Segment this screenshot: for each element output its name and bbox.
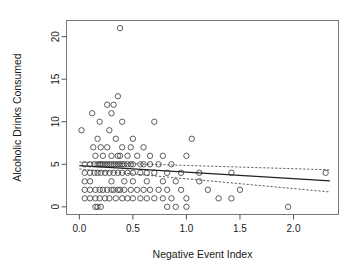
data-point xyxy=(134,187,139,192)
data-point xyxy=(109,153,114,158)
data-point xyxy=(125,153,130,158)
data-point xyxy=(184,196,189,201)
data-point xyxy=(189,136,194,141)
confidence-band-line xyxy=(79,169,330,192)
x-tick-label: 1.5 xyxy=(233,223,247,234)
data-point xyxy=(113,136,118,141)
y-axis-ticks: 05101520 xyxy=(50,31,67,210)
data-point xyxy=(156,187,161,192)
data-point xyxy=(152,196,157,201)
data-point xyxy=(82,179,87,184)
data-point xyxy=(79,128,84,133)
data-point xyxy=(160,179,165,184)
data-point xyxy=(98,204,103,209)
data-point xyxy=(100,153,105,158)
x-axis-label: Negative Event Index xyxy=(153,248,254,260)
data-point xyxy=(169,162,174,167)
data-point xyxy=(229,196,234,201)
data-point xyxy=(91,145,96,150)
data-point xyxy=(95,136,100,141)
data-point xyxy=(164,187,169,192)
data-point xyxy=(134,153,139,158)
data-point xyxy=(87,179,92,184)
data-point xyxy=(109,111,114,116)
data-point xyxy=(128,187,133,192)
x-tick-label: 0.5 xyxy=(126,223,140,234)
data-point xyxy=(141,145,146,150)
data-point xyxy=(82,196,87,201)
data-point xyxy=(173,179,178,184)
data-point xyxy=(147,187,152,192)
data-point xyxy=(173,204,178,209)
data-point xyxy=(130,179,135,184)
data-point xyxy=(205,187,210,192)
data-point xyxy=(87,196,92,201)
data-point xyxy=(82,170,87,175)
scatter-plot-figure: 0.00.51.01.52.0 05101520 Negative Event … xyxy=(0,0,364,274)
plot-frame-group xyxy=(67,21,339,215)
y-tick-label: 0 xyxy=(50,204,61,210)
x-tick-label: 0.0 xyxy=(72,223,86,234)
data-point xyxy=(197,179,202,184)
data-point xyxy=(93,153,98,158)
data-point xyxy=(125,170,130,175)
data-point xyxy=(178,187,183,192)
data-point xyxy=(125,196,130,201)
regression-line xyxy=(79,166,330,181)
data-point xyxy=(138,196,143,201)
data-point xyxy=(184,153,189,158)
data-point xyxy=(160,196,165,201)
y-axis-label: Alcoholic Drinks Consumed xyxy=(11,53,23,182)
data-point xyxy=(152,119,157,124)
data-point xyxy=(119,119,124,124)
data-point xyxy=(144,179,149,184)
data-point xyxy=(147,153,152,158)
data-point xyxy=(104,145,109,150)
data-point xyxy=(122,179,127,184)
data-point xyxy=(113,196,118,201)
data-point xyxy=(109,179,114,184)
data-point xyxy=(164,204,169,209)
data-point xyxy=(130,136,135,141)
data-point xyxy=(130,196,135,201)
data-point xyxy=(141,187,146,192)
data-point xyxy=(119,145,124,150)
data-point xyxy=(98,145,103,150)
data-point xyxy=(117,25,122,30)
data-point xyxy=(130,170,135,175)
x-tick-label: 2.0 xyxy=(287,223,301,234)
plot-border xyxy=(67,21,339,215)
data-point xyxy=(128,145,133,150)
y-tick-label: 5 xyxy=(50,161,61,167)
chart-canvas: 0.00.51.01.52.0 05101520 Negative Event … xyxy=(0,0,364,274)
regression-line-group xyxy=(79,166,330,181)
y-tick-label: 15 xyxy=(50,73,61,85)
data-points-group xyxy=(79,25,329,209)
confidence-band-line xyxy=(79,162,330,170)
data-point xyxy=(87,187,92,192)
data-point xyxy=(285,204,290,209)
y-tick-label: 20 xyxy=(50,31,61,43)
data-point xyxy=(144,196,149,201)
data-point xyxy=(160,153,165,158)
data-point xyxy=(184,204,189,209)
data-point xyxy=(237,187,242,192)
y-tick-label: 10 xyxy=(50,116,61,128)
data-point xyxy=(169,196,174,201)
x-tick-label: 1.0 xyxy=(179,223,193,234)
data-point xyxy=(216,196,221,201)
data-point xyxy=(82,187,87,192)
data-point xyxy=(323,170,328,175)
data-point xyxy=(104,102,109,107)
data-point xyxy=(119,196,124,201)
data-point xyxy=(90,111,95,116)
x-axis-ticks: 0.00.51.01.52.0 xyxy=(72,215,301,234)
data-point xyxy=(178,170,183,175)
data-point xyxy=(97,119,102,124)
data-point xyxy=(115,94,120,99)
data-point xyxy=(111,102,116,107)
data-point xyxy=(107,128,112,133)
